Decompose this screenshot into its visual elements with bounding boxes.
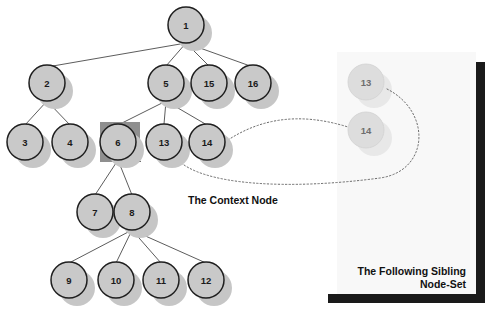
node-label: 7 (92, 207, 97, 218)
node-label: 3 (22, 137, 27, 148)
tree-node-4[interactable]: 4 (52, 124, 88, 160)
edge-8-10 (116, 230, 132, 263)
node-label: 13 (159, 137, 170, 148)
tree-node-7[interactable]: 7 (77, 194, 113, 230)
node-label: 12 (201, 275, 212, 286)
edge-6-7 (95, 160, 118, 195)
tree-node-5[interactable]: 5 (148, 65, 184, 101)
tree-node-14[interactable]: 14 (189, 124, 225, 160)
ghost-node-13-label: 13 (361, 77, 372, 88)
panel-shadow-bottom (328, 294, 485, 303)
node-label: 16 (248, 78, 259, 89)
node-label: 11 (156, 275, 167, 286)
node-shadow-group (15, 15, 279, 306)
node-label: 9 (66, 275, 71, 286)
tree-node-1[interactable]: 1 (168, 7, 204, 43)
edge-1-2 (47, 43, 186, 67)
tree-node-10[interactable]: 10 (98, 262, 134, 298)
node-label: 10 (111, 275, 122, 286)
node-label: 14 (202, 137, 213, 148)
node-label: 5 (163, 78, 169, 89)
tree-node-16[interactable]: 16 (235, 65, 271, 101)
context-node-caption: The Context Node (188, 194, 278, 206)
tree-node-13[interactable]: 13 (146, 124, 182, 160)
xpath-axis-diagram: 13 14 (0, 0, 489, 314)
node-label: 2 (44, 78, 49, 89)
panel-shadow-right (476, 62, 485, 302)
edge-5-6 (118, 101, 166, 125)
node-label: 4 (67, 137, 73, 148)
node-label: 15 (204, 78, 215, 89)
tree-node-8[interactable]: 8 (114, 194, 150, 230)
tree-node-3[interactable]: 3 (7, 124, 43, 160)
node-label: 6 (115, 137, 120, 148)
tree-node-9[interactable]: 9 (51, 262, 87, 298)
node-label: 1 (183, 20, 189, 31)
diagram-canvas: 13 14 (0, 0, 489, 314)
tree-node-6-context[interactable]: 6 (100, 124, 136, 160)
tree-node-11[interactable]: 11 (143, 262, 179, 298)
following-sibling-caption-line1: The Following Sibling (358, 265, 467, 277)
tree-node-15[interactable]: 15 (191, 65, 227, 101)
connector-node14-to-ghost14 (225, 119, 348, 142)
tree-node-2[interactable]: 2 (29, 65, 65, 101)
ghost-node-14-label: 14 (361, 125, 372, 136)
node-label: 8 (129, 207, 134, 218)
following-sibling-caption-line2: Node-Set (420, 278, 467, 290)
tree-node-12[interactable]: 12 (188, 262, 224, 298)
